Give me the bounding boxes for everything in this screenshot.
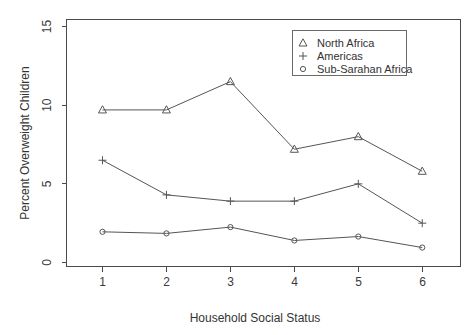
legend-label-north-africa: North Africa [317,37,375,49]
legend-label-americas: Americas [317,50,363,62]
series-line-sub-sarahan-africa [103,227,423,247]
x-tick-label-4: 4 [291,275,298,289]
data-point-north-africa-1 [99,106,107,113]
x-tick-label-5: 5 [355,275,362,289]
data-series-layer [99,77,427,250]
y-tick-label-0: 0 [40,259,54,266]
series-americas [99,156,427,227]
y-tick-label-15: 15 [40,20,54,34]
x-axis-title: Household Social Status [190,311,321,325]
data-point-north-africa-2 [162,106,170,113]
data-point-americas-6 [418,219,426,227]
data-point-americas-3 [226,197,234,205]
data-point-americas-2 [162,191,170,199]
chart-legend: North Africa Americas Sub-Sarahan Africa [293,31,414,76]
series-line-americas [103,160,423,223]
data-point-north-africa-3 [226,77,234,84]
legend-label-sub-sarahan-africa: Sub-Sarahan Africa [317,63,413,75]
x-tick-label-6: 6 [419,275,426,289]
x-tick-label-1: 1 [99,275,106,289]
x-tick-label-3: 3 [227,275,234,289]
data-point-north-africa-6 [418,167,426,174]
data-point-americas-1 [99,156,107,164]
y-tick-label-5: 5 [40,180,54,187]
x-axis-ticks [103,267,423,272]
series-north-africa [99,77,427,174]
series-sub-sarahan-africa [100,225,425,251]
y-axis-ticks [62,27,67,263]
plot-area: 15 10 5 0 Percent Overweight Children 1 … [0,0,476,335]
y-tick-label-10: 10 [40,98,54,112]
chart-figure: 15 10 5 0 Percent Overweight Children 1 … [0,0,476,335]
y-axis-tick-labels: 15 10 5 0 [40,20,54,266]
x-tick-label-2: 2 [163,275,170,289]
y-axis-title: Percent Overweight Children [18,66,32,219]
data-point-americas-4 [290,197,298,205]
data-point-americas-5 [354,180,362,188]
x-axis-tick-labels: 1 2 3 4 5 6 [99,275,426,289]
series-line-north-africa [103,82,423,172]
